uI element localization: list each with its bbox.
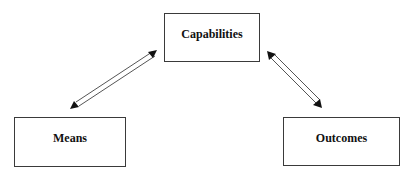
node-capabilities: Capabilities (164, 13, 260, 62)
arrowhead-down-right-icon (313, 99, 322, 108)
node-means-label: Means (53, 131, 87, 166)
arrowhead-down-left-icon (70, 101, 79, 109)
diagram-canvas: Capabilities Means Outcomes (0, 0, 413, 175)
node-means: Means (14, 117, 126, 167)
node-capabilities-label: Capabilities (181, 27, 242, 61)
arrow-capabilities-outcomes (267, 51, 322, 108)
node-outcomes-label: Outcomes (316, 131, 367, 165)
arrow-means-capabilities (70, 50, 157, 109)
node-outcomes: Outcomes (283, 117, 400, 166)
